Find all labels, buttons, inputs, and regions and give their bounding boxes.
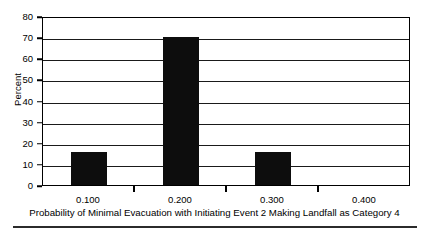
y-tick-label: 60 (22, 55, 33, 65)
y-tick-label: 70 (22, 33, 33, 43)
y-tick-label: 30 (22, 118, 33, 128)
x-tick-mark (317, 186, 319, 192)
histogram-figure: 01020304050607080 Percent 0.1000.2000.30… (0, 0, 429, 234)
x-tick-mark (133, 186, 135, 192)
x-tick-label: 0.100 (76, 194, 100, 205)
bar-series (43, 18, 409, 185)
x-tick-label: 0.200 (168, 194, 192, 205)
y-tick-label: 20 (22, 139, 33, 149)
x-tick-label: 0.400 (352, 194, 376, 205)
x-axis-tick-labels: 0.1000.2000.3000.400 (42, 194, 410, 206)
plot-area (42, 17, 410, 186)
x-axis-ticks (42, 186, 410, 194)
bar (255, 152, 290, 185)
bar (163, 37, 198, 185)
y-tick-label: 10 (22, 160, 33, 170)
y-tick-label: 40 (22, 97, 33, 107)
bar (71, 152, 106, 185)
y-tick-label: 0 (28, 181, 33, 191)
x-tick-mark (225, 186, 227, 192)
y-tick-label: 50 (22, 76, 33, 86)
caption-divider (13, 226, 417, 228)
y-tick-label: 80 (22, 12, 33, 22)
x-axis-title: Probability of Minimal Evacuation with I… (0, 207, 429, 218)
y-axis-title: Percent (12, 55, 23, 125)
x-tick-label: 0.300 (260, 194, 284, 205)
